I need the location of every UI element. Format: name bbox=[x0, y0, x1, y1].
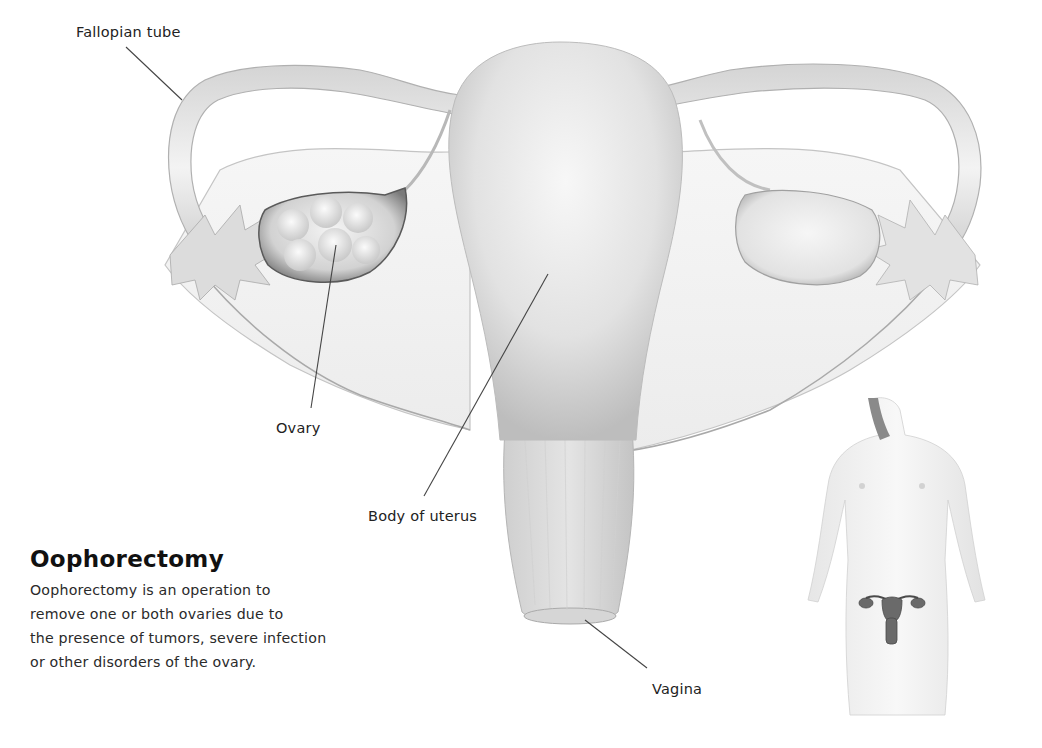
caption-line: or other disorders of the ovary. bbox=[30, 650, 390, 674]
caption-title: Oophorectomy bbox=[30, 546, 390, 572]
ovary-right bbox=[736, 190, 880, 284]
caption-line: the presence of tumors, severe infection bbox=[30, 626, 390, 650]
label-body-of-uterus: Body of uterus bbox=[368, 508, 477, 524]
label-ovary: Ovary bbox=[276, 420, 320, 436]
inset-figure bbox=[808, 398, 985, 715]
leader-vagina bbox=[585, 620, 647, 668]
cervix-vagina bbox=[504, 430, 634, 623]
vaginal-opening bbox=[524, 608, 616, 624]
leader-fallopian-tube bbox=[126, 47, 182, 100]
caption-description: Oophorectomy is an operation to remove o… bbox=[30, 578, 390, 674]
caption-line: remove one or both ovaries due to bbox=[30, 602, 390, 626]
caption-block: Oophorectomy Oophorectomy is an operatio… bbox=[30, 546, 390, 674]
caption-line: Oophorectomy is an operation to bbox=[30, 578, 390, 602]
label-vagina: Vagina bbox=[652, 681, 702, 697]
label-fallopian-tube: Fallopian tube bbox=[76, 24, 181, 40]
